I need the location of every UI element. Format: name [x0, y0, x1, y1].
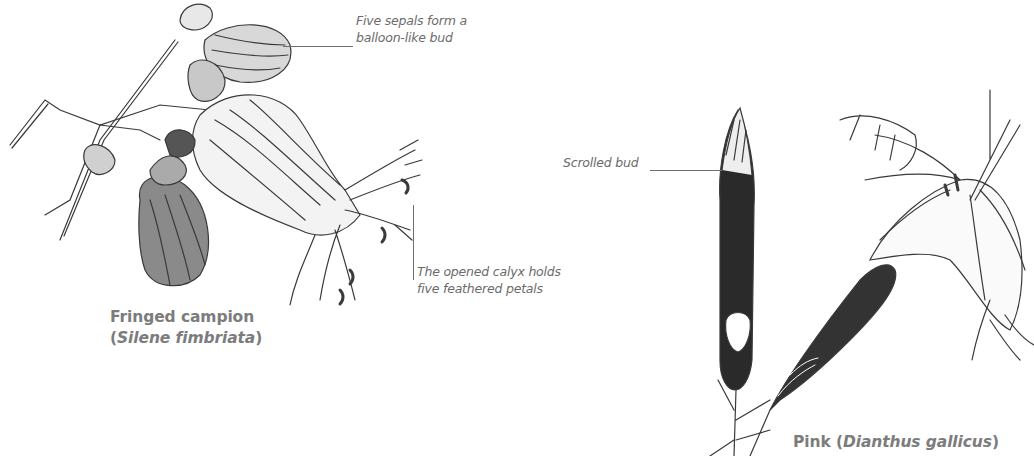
caption-fringed-campion: Fringed campion (Silene fimbriata)	[110, 307, 262, 349]
annotation-calyx: The opened calyx holds five feathered pe…	[417, 263, 561, 297]
paren-close: )	[992, 433, 999, 451]
caption-pink: Pink (Dianthus gallicus)	[793, 432, 999, 453]
scientific-name: Silene fimbriata	[117, 329, 255, 347]
annotation-calyx-line1: The opened calyx holds	[417, 263, 561, 280]
annotation-sepals: Five sepals form a balloon-like bud	[356, 12, 467, 46]
caption-scientific-line: (Silene fimbriata)	[110, 328, 262, 349]
pink-dianthus-illustration	[690, 80, 1034, 456]
caption-common-name: Pink	[793, 433, 831, 451]
annotation-calyx-line2: five feathered petals	[417, 280, 561, 297]
annotation-sepals-line1: Five sepals form a	[356, 12, 467, 29]
leader-line-scrolled-bud	[650, 170, 722, 171]
leader-line-sepals	[283, 46, 353, 47]
leader-line-calyx	[413, 205, 414, 280]
paren-close: )	[255, 329, 262, 347]
paren-open: (	[831, 433, 843, 451]
annotation-scrolled-bud: Scrolled bud	[563, 154, 639, 171]
scientific-name: Dianthus gallicus	[843, 433, 992, 451]
paren-open: (	[110, 329, 117, 347]
caption-common-name: Fringed campion	[110, 307, 262, 328]
annotation-sepals-line2: balloon-like bud	[356, 29, 467, 46]
fringed-campion-illustration	[0, 0, 440, 330]
